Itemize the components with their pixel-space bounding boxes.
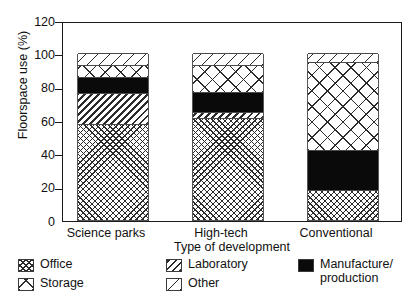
sparse-diagonal-swatch-icon [166,278,182,291]
segment-conventional-manufacture [308,150,378,190]
chart-legend: Office Storage Laboratory Other Manufact… [18,258,418,300]
dense-diagonal-swatch-icon [166,259,182,272]
legend-item-storage[interactable]: Storage [18,277,84,293]
bar-science-parks[interactable] [77,54,149,221]
segment-high-tech-manufacture [193,92,263,112]
bar-conventional[interactable] [307,54,379,221]
segment-high-tech-other [193,53,263,65]
x-tick-label-conventional: Conventional [266,226,406,240]
legend-item-other[interactable]: Other [166,277,248,293]
segment-science-parks-storage [78,65,148,77]
segment-conventional-storage [308,62,378,150]
bar-high-tech[interactable] [192,54,264,221]
legend-item-laboratory[interactable]: Laboratory [166,258,248,274]
segment-conventional-office [308,190,378,220]
segment-science-parks-office [78,124,148,220]
segment-high-tech-storage [193,65,263,92]
y-tick-label-20: 20 [25,182,55,194]
segment-science-parks-other [78,53,148,65]
legend-label-storage: Storage [40,277,84,291]
legend-column-1: Office Storage [18,258,84,296]
legend-label-other: Other [188,277,219,291]
legend-label-office: Office [40,258,72,272]
segment-high-tech-laboratory [193,112,263,119]
legend-column-2: Laboratory Other [166,258,248,296]
legend-label-manufacture: Manufacture/ production [320,258,393,285]
legend-item-office[interactable]: Office [18,258,84,274]
large-diamond-swatch-icon [18,278,34,291]
segment-high-tech-office [193,118,263,220]
y-axis-title: Floorspace use (%) [16,10,30,160]
legend-column-3: Manufacture/ production [298,258,393,288]
fine-crosshatch-swatch-icon [18,259,34,272]
solid-black-swatch-icon [298,259,314,272]
legend-label-laboratory: Laboratory [188,258,248,272]
plot-area [62,22,402,222]
segment-science-parks-manufacture [78,77,148,94]
legend-item-manufacture[interactable]: Manufacture/ production [298,258,393,285]
segment-conventional-other [308,53,378,61]
segment-science-parks-laboratory [78,93,148,124]
chart-figure: 120 100 80 60 40 20 0 Floorspace use (%) [0,0,418,300]
x-axis-title: Type of development [62,240,402,254]
